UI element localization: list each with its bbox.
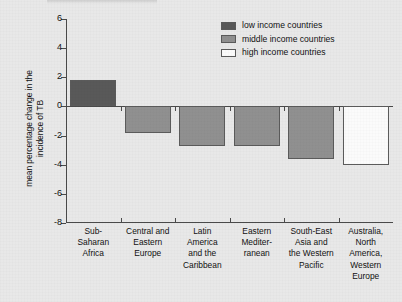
x-label-line: Pacific [284, 260, 339, 271]
category-tick-bottom-3 [284, 218, 285, 223]
y-axis-title-line-2: incidence of TB [34, 43, 45, 215]
bar-0 [70, 80, 116, 106]
x-label-line: Eastern [230, 226, 285, 237]
x-label-line: Latin [175, 226, 230, 237]
category-tick-zero-4 [339, 106, 340, 111]
legend-label-middle: middle income countries [242, 33, 335, 47]
x-label-3: EasternMediter-ranean [230, 226, 285, 260]
category-tick-zero-1 [175, 106, 176, 111]
legend-swatch-low-icon [221, 22, 236, 30]
category-tick-zero-0 [121, 106, 122, 111]
bar-4 [288, 106, 334, 158]
bar-3 [234, 106, 280, 145]
cropped-title-sliver [47, 0, 157, 4]
y-tick-label: -2 [54, 130, 62, 141]
y-tick-label: -6 [54, 188, 62, 199]
legend-label-high: high income countries [242, 46, 326, 60]
y-axis-title-line-1: mean percentage change in the [24, 43, 35, 215]
x-label-line: North [339, 237, 394, 248]
x-label-line: and the [175, 248, 230, 259]
bar-2 [179, 106, 225, 145]
x-axis-category-labels: Sub-SaharanAfricaCentral andEasternEurop… [66, 226, 393, 300]
y-tick-label: 2 [57, 71, 62, 82]
legend-item-high: high income countries [221, 46, 335, 60]
y-axis-line [66, 19, 67, 223]
x-label-line: Central and [121, 226, 176, 237]
x-label-4: South-EastAsia andthe WesternPacific [284, 226, 339, 271]
tb-incidence-bar-chart: mean percentage change in the incidence … [0, 0, 402, 302]
category-tick-bottom-2 [230, 218, 231, 223]
legend-label-low: low income countries [242, 19, 322, 33]
x-label-line: America, [339, 248, 394, 259]
category-tick-bottom-4 [339, 218, 340, 223]
x-label-1: Central andEasternEurope [121, 226, 176, 260]
x-label-line: America [175, 237, 230, 248]
x-label-line: Europe [121, 248, 176, 259]
y-axis-title: mean percentage change in the incidence … [24, 43, 45, 215]
y-tick-label: -4 [54, 159, 62, 170]
x-label-line: Europe [339, 271, 394, 282]
x-label-line: Caribbean [175, 260, 230, 271]
x-label-line: Mediter- [230, 237, 285, 248]
x-label-line: Africa [66, 248, 121, 259]
x-label-line: South-East [284, 226, 339, 237]
x-label-0: Sub-SaharanAfrica [66, 226, 121, 260]
legend-item-middle: middle income countries [221, 33, 335, 47]
x-label-line: ranean [230, 248, 285, 259]
x-label-line: Eastern [121, 237, 176, 248]
x-label-line: Sub- [66, 226, 121, 237]
legend-item-low: low income countries [221, 19, 335, 33]
y-tick-label: 0 [57, 100, 62, 111]
legend-swatch-high-icon [221, 49, 236, 57]
x-label-line: Australia, [339, 226, 394, 237]
category-tick-bottom-0 [121, 218, 122, 223]
x-label-line: Asia and [284, 237, 339, 248]
category-tick-zero-3 [284, 106, 285, 111]
y-tick-label: -8 [54, 217, 62, 228]
category-tick-zero-2 [230, 106, 231, 111]
y-tick-label: 4 [57, 42, 62, 53]
x-label-2: LatinAmericaand theCaribbean [175, 226, 230, 271]
x-label-line: Western [339, 260, 394, 271]
x-label-line: Saharan [66, 237, 121, 248]
x-label-line: the Western [284, 248, 339, 259]
x-label-5: Australia,NorthAmerica,WesternEurope [339, 226, 394, 282]
legend: low income countries middle income count… [221, 19, 335, 60]
bar-1 [125, 106, 171, 132]
category-tick-bottom-1 [175, 218, 176, 223]
legend-swatch-middle-icon [221, 35, 236, 43]
bar-5 [343, 106, 389, 164]
y-tick-label: 6 [57, 13, 62, 24]
